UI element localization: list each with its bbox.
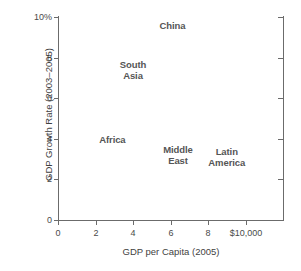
right-tick-mark bbox=[278, 58, 283, 59]
y-tick-mark bbox=[54, 98, 58, 99]
x-tick-label: 8 bbox=[205, 228, 210, 238]
right-tick-mark bbox=[278, 139, 283, 140]
x-tick-label: $10,000 bbox=[230, 228, 263, 238]
x-tick-label: 0 bbox=[55, 228, 60, 238]
x-tick-mark bbox=[208, 221, 209, 225]
x-tick-mark bbox=[58, 221, 59, 225]
x-tick-mark bbox=[246, 221, 247, 225]
y-tick-mark bbox=[54, 179, 58, 180]
right-tick-mark bbox=[278, 179, 283, 180]
x-tick-label: 6 bbox=[168, 228, 173, 238]
y-tick-mark bbox=[54, 17, 58, 18]
data-point-label: Latin America bbox=[208, 146, 245, 168]
right-axis-line bbox=[283, 16, 284, 221]
right-tick-mark bbox=[278, 17, 283, 18]
scatter-chart: 0246810% 02468$10,000 GDP per Capita (20… bbox=[0, 0, 301, 271]
y-axis-title: GDP Growth Rate (2003–2005) bbox=[43, 10, 54, 220]
x-tick-label: 4 bbox=[130, 228, 135, 238]
data-point-label: China bbox=[159, 20, 185, 31]
x-tick-mark bbox=[171, 221, 172, 225]
x-tick-label: 2 bbox=[93, 228, 98, 238]
y-tick-mark bbox=[54, 139, 58, 140]
right-tick-mark bbox=[278, 98, 283, 99]
plot-area bbox=[58, 17, 283, 220]
x-tick-mark bbox=[133, 221, 134, 225]
x-axis-title: GDP per Capita (2005) bbox=[58, 246, 284, 257]
y-tick-mark bbox=[54, 58, 58, 59]
data-point-label: Africa bbox=[99, 133, 125, 144]
x-tick-mark bbox=[96, 221, 97, 225]
data-point-label: South Asia bbox=[120, 59, 146, 81]
data-point-label: Middle East bbox=[163, 144, 192, 166]
